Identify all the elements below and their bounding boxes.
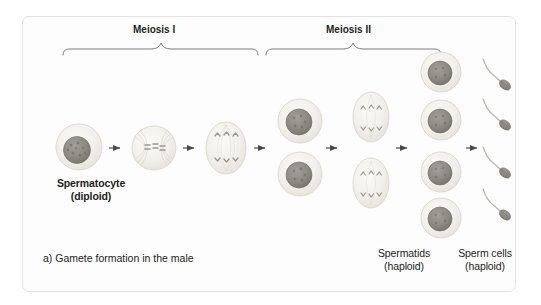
- phase-label-meiosis-i: Meiosis I: [133, 24, 175, 35]
- cell-spermatid-1: [421, 52, 461, 92]
- cell-spermatid-4: [421, 198, 461, 238]
- cell-anaphase-i: [206, 122, 246, 174]
- label-spermatocyte-name: Spermatocyte: [31, 177, 151, 190]
- cell-anaphase-ii-1: [353, 92, 389, 142]
- cell-spermatid-3: [421, 152, 461, 192]
- brace-meiosis-i: [63, 43, 258, 55]
- label-spermatocyte-ploidy: (diploid): [31, 190, 151, 203]
- cell-anaphase-ii-2: [353, 158, 389, 208]
- label-sperm-cells-ploidy: (haploid): [435, 260, 535, 273]
- cell-spermatocyte-primary: [56, 124, 102, 170]
- sperm-cell-1: [483, 59, 513, 93]
- label-sperm-cells-name: Sperm cells: [435, 247, 535, 260]
- cell-metaphase-i: [132, 126, 176, 170]
- phase-label-meiosis-ii: Meiosis II: [326, 24, 371, 35]
- label-spermatocyte: Spermatocyte (diploid): [31, 177, 151, 203]
- sperm-cell-4: [483, 189, 513, 223]
- sperm-cell-3: [483, 147, 513, 181]
- figure-panel: Meiosis I Meiosis II Spermatocyte (diplo…: [22, 16, 516, 292]
- cell-secondary-spermatocyte-1: [278, 99, 322, 143]
- cell-secondary-spermatocyte-2: [278, 152, 322, 196]
- cell-spermatid-2: [421, 100, 461, 140]
- label-sperm-cells: Sperm cells (haploid): [435, 247, 535, 273]
- sperm-cell-2: [483, 99, 513, 133]
- brace-meiosis-ii: [266, 43, 441, 55]
- figure-caption: a) Gamete formation in the male: [43, 252, 194, 264]
